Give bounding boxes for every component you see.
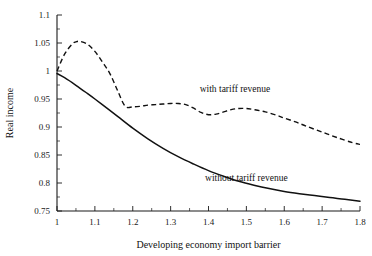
x-tick-label: 1.7 bbox=[317, 217, 329, 227]
y-tick-label: 1.05 bbox=[34, 38, 50, 48]
y-tick-label: 0.95 bbox=[34, 94, 50, 104]
series-label-with-tariff-revenue: with tariff revenue bbox=[200, 84, 271, 94]
y-tick-label: 1 bbox=[46, 66, 51, 76]
x-tick-label: 1.1 bbox=[89, 217, 100, 227]
x-axis-title: Developing economy import barrier bbox=[136, 239, 281, 250]
x-tick-label: 1.5 bbox=[241, 217, 253, 227]
x-tick-label: 1 bbox=[55, 217, 60, 227]
x-tick-label: 1.6 bbox=[279, 217, 291, 227]
y-tick-label: 0.85 bbox=[34, 150, 50, 160]
x-tick-label: 1.3 bbox=[165, 217, 177, 227]
y-tick-label: 1.1 bbox=[39, 10, 50, 20]
y-tick-label: 0.75 bbox=[34, 206, 50, 216]
real-income-line-chart: 0.750.80.850.90.9511.051.1 11.11.21.31.4… bbox=[0, 0, 372, 256]
x-tick-label: 1.8 bbox=[354, 217, 366, 227]
x-tick-label: 1.4 bbox=[203, 217, 215, 227]
series-label-without-tariff-revenue: without tariff revenue bbox=[205, 173, 288, 183]
y-tick-label: 0.9 bbox=[39, 122, 51, 132]
x-tick-label: 1.2 bbox=[127, 217, 138, 227]
y-tick-label: 0.8 bbox=[39, 178, 51, 188]
y-axis-title: Real income bbox=[4, 87, 15, 138]
